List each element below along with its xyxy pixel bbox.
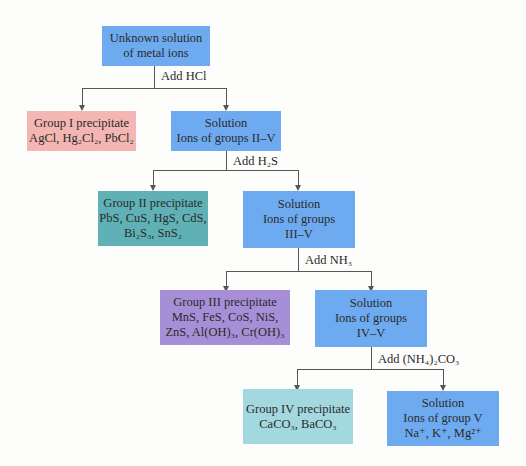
node-formula: ZnS, Al(OH)₃, Cr(OH)₃	[165, 325, 284, 340]
connector	[226, 271, 372, 272]
node-text: III–V	[285, 227, 313, 242]
node-group3-precipitate: Group III precipitate MnS, FeS, CoS, NiS…	[160, 290, 290, 345]
connector	[371, 347, 372, 369]
node-formula: PbS, CuS, HgS, CdS,	[99, 211, 206, 226]
connector	[153, 170, 299, 171]
connector	[154, 66, 155, 88]
reagent-label-nh4-2co3: Add (NH₄)₂CO₃	[378, 352, 459, 367]
node-text: Na⁺, K⁺, Mg²⁺	[404, 426, 481, 441]
connector	[82, 88, 227, 89]
node-group4-precipitate: Group IV precipitate CaCO₃, BaCO₃	[243, 389, 353, 444]
node-text: Solution	[278, 197, 320, 212]
node-unknown-solution: Unknown solution of metal ions	[102, 26, 210, 66]
node-formula: CaCO₃, BaCO₃	[259, 417, 336, 432]
node-text: Ions of groups II–V	[177, 131, 276, 146]
node-text: Solution	[350, 296, 392, 311]
node-text: Solution	[205, 116, 247, 131]
node-text: Solution	[422, 396, 464, 411]
node-solution-groups-3-5: Solution Ions of groups III–V	[243, 191, 355, 248]
node-text: Ions of group V	[403, 411, 482, 426]
reagent-label-nh3: Add NH₃	[305, 253, 352, 268]
connector	[226, 151, 227, 170]
node-solution-group-5: Solution Ions of group V Na⁺, K⁺, Mg²⁺	[387, 391, 499, 446]
node-text: Unknown solution	[110, 31, 203, 46]
node-text: Ions of groups	[335, 311, 407, 326]
node-title: Group III precipitate	[173, 295, 276, 310]
node-solution-groups-4-5: Solution Ions of groups IV–V	[315, 290, 427, 347]
node-solution-groups-2-5: Solution Ions of groups II–V	[171, 111, 281, 151]
node-formula: MnS, FeS, CoS, NiS,	[172, 310, 279, 325]
node-text: IV–V	[357, 326, 385, 341]
node-group1-precipitate: Group I precipitate AgCl, Hg₂Cl₂, PbCl₂	[27, 111, 136, 151]
node-formula: AgCl, Hg₂Cl₂, PbCl₂	[29, 131, 134, 146]
connector	[298, 248, 299, 271]
node-title: Group IV precipitate	[246, 402, 350, 417]
node-text: of metal ions	[123, 46, 188, 61]
reagent-label-h2s: Add H₂S	[233, 154, 278, 169]
node-formula: Bi₂S₃, SnS₂	[124, 226, 182, 241]
node-title: Group I precipitate	[34, 116, 129, 131]
connector	[297, 369, 444, 370]
node-text: Ions of groups	[263, 212, 335, 227]
node-group2-precipitate: Group II precipitate PbS, CuS, HgS, CdS,…	[98, 191, 208, 246]
node-title: Group II precipitate	[103, 196, 202, 211]
reagent-label-hcl: Add HCl	[161, 69, 207, 84]
